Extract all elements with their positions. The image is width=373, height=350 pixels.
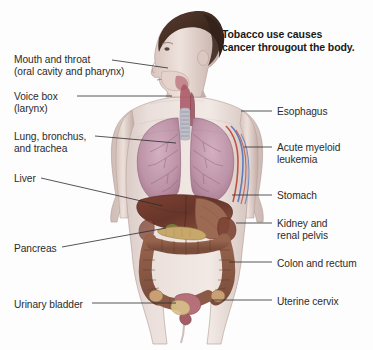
- label-esophagus: Esophagus: [277, 106, 328, 118]
- label-stomach: Stomach: [277, 190, 317, 202]
- label-mouth-and-throat-line2: (oral cavity and pharynx): [14, 66, 124, 77]
- label-lung-bronchus-and-trachea-line2: and trachea: [14, 143, 67, 154]
- label-stomach-line1: Stomach: [277, 190, 317, 201]
- label-uterine-cervix-line1: Uterine cervix: [277, 296, 339, 307]
- label-acute-myeloid-leukemia-line2: leukemia: [277, 154, 317, 165]
- label-liver: Liver: [14, 173, 36, 185]
- label-urinary-bladder-line1: Urinary bladder: [14, 299, 83, 310]
- label-uterine-cervix: Uterine cervix: [277, 296, 339, 308]
- label-liver-line1: Liver: [14, 173, 36, 184]
- label-esophagus-line1: Esophagus: [277, 106, 328, 117]
- label-voice-box-line1: Voice box: [14, 91, 58, 102]
- label-pancreas: Pancreas: [14, 243, 57, 255]
- label-lung-bronchus-and-trachea: Lung, bronchus,and trachea: [14, 131, 86, 154]
- label-acute-myeloid-leukemia-line1: Acute myeloid: [277, 142, 340, 153]
- label-mouth-and-throat-line1: Mouth and throat: [14, 54, 90, 65]
- label-colon-and-rectum: Colon and rectum: [277, 258, 357, 270]
- label-pancreas-line1: Pancreas: [14, 243, 57, 254]
- anatomical-figure-panel: Tobacco use causes cancer througout the …: [0, 0, 373, 350]
- label-mouth-and-throat: Mouth and throat(oral cavity and pharynx…: [14, 54, 124, 77]
- label-urinary-bladder: Urinary bladder: [14, 299, 83, 311]
- figure-title: Tobacco use causes cancer througout the …: [222, 28, 372, 53]
- figure-title-line1: Tobacco use causes: [222, 28, 322, 40]
- label-kidney-and-renal-pelvis-line2: renal pelvis: [277, 230, 328, 241]
- label-voice-box-line2: (larynx): [14, 103, 48, 114]
- figure-title-line2: cancer througout the body.: [222, 41, 355, 53]
- label-voice-box: Voice box(larynx): [14, 91, 58, 114]
- uterus-cervix-bladder: [171, 294, 201, 343]
- label-acute-myeloid-leukemia: Acute myeloidleukemia: [277, 142, 340, 165]
- label-kidney-and-renal-pelvis-line1: Kidney and: [277, 218, 327, 229]
- label-kidney-and-renal-pelvis: Kidney andrenal pelvis: [277, 218, 328, 241]
- label-lung-bronchus-and-trachea-line1: Lung, bronchus,: [14, 131, 86, 142]
- label-colon-and-rectum-line1: Colon and rectum: [277, 258, 357, 269]
